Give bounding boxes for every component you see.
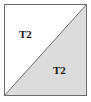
region-label-lower-right: T2 bbox=[53, 65, 66, 76]
split-square-diagram: T2 T2 bbox=[0, 0, 91, 102]
diagram-canvas bbox=[0, 0, 91, 102]
region-label-upper-left: T2 bbox=[19, 29, 32, 40]
